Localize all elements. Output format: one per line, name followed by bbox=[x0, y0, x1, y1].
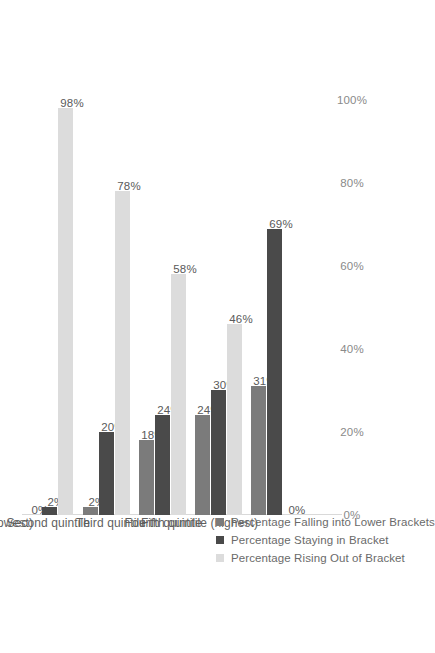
bar-rising[interactable] bbox=[227, 324, 242, 515]
legend-swatch-icon bbox=[216, 536, 224, 544]
bar-value-label: 69% bbox=[269, 218, 293, 230]
bar-rising[interactable] bbox=[171, 274, 186, 515]
axis-tick-40: 40% bbox=[340, 343, 364, 355]
bar-staying[interactable] bbox=[267, 229, 282, 515]
legend-item-label: Percentage Falling into Lower Brackets bbox=[231, 516, 435, 528]
bar-staying[interactable] bbox=[155, 415, 170, 515]
legend-items: Percentage Falling into Lower Brackets P… bbox=[216, 513, 435, 567]
bar-falling[interactable] bbox=[195, 415, 210, 515]
legend-item-staying[interactable]: Percentage Staying in Bracket bbox=[216, 531, 435, 549]
category-label-slot: First quintile (lowest) bbox=[26, 523, 82, 653]
legend-swatch-icon bbox=[216, 518, 224, 526]
legend-item-rising[interactable]: Percentage Rising Out of Bracket bbox=[216, 549, 435, 567]
category-label-slot: Third quintile bbox=[139, 523, 195, 653]
bar-falling[interactable] bbox=[139, 440, 154, 515]
bar-value-label: 46% bbox=[229, 313, 253, 325]
bar-rising[interactable] bbox=[115, 191, 130, 515]
legend-item-label: Percentage Rising Out of Bracket bbox=[231, 552, 405, 564]
bar-rising[interactable] bbox=[58, 108, 73, 515]
legend-swatch-icon bbox=[216, 554, 224, 562]
axis-tick-20: 20% bbox=[340, 426, 364, 438]
category-label-slot: Second quintile bbox=[83, 523, 139, 653]
legend-item-falling[interactable]: Percentage Falling into Lower Brackets bbox=[216, 513, 435, 531]
bar-staying[interactable] bbox=[211, 391, 226, 516]
bar-value-label: 58% bbox=[173, 263, 197, 275]
legend-item-label: Percentage Staying in Bracket bbox=[231, 534, 389, 546]
plot-area: 0% 2% 98% 2% 20% bbox=[0, 100, 374, 515]
axis-tick-80: 80% bbox=[340, 177, 364, 189]
axis-tick-60: 60% bbox=[340, 260, 364, 272]
bar-falling[interactable] bbox=[251, 386, 266, 515]
bar-value-label: 98% bbox=[60, 97, 84, 109]
bar-value-label: 78% bbox=[117, 180, 141, 192]
bar-staying[interactable] bbox=[99, 432, 114, 515]
axis-tick-100: 100% bbox=[337, 94, 367, 106]
